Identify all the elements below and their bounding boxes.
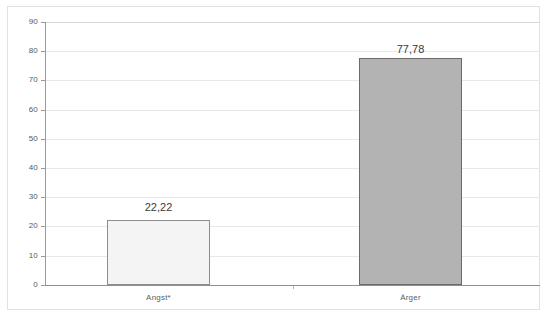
x-category-label-aerger: Ärger	[359, 294, 462, 302]
gridline-80	[46, 51, 540, 52]
gridline-70	[46, 80, 540, 81]
gridline-90	[46, 22, 540, 23]
plot-area	[46, 22, 540, 285]
y-tick-label-10: 10	[8, 252, 38, 260]
y-tick-label-90: 90	[8, 18, 38, 26]
bar-value-label-angst: 22,22	[107, 202, 210, 213]
y-tick-mark-40	[41, 168, 45, 169]
y-tick-label-0: 0	[8, 281, 38, 289]
y-tick-mark-0	[41, 285, 45, 286]
y-tick-label-40: 40	[8, 164, 38, 172]
y-tick-mark-80	[41, 51, 45, 52]
y-tick-mark-20	[41, 226, 45, 227]
bar-angst	[107, 220, 210, 285]
bar-aerger	[359, 58, 462, 285]
y-axis-line	[45, 22, 46, 286]
y-tick-mark-70	[41, 80, 45, 81]
y-tick-mark-60	[41, 110, 45, 111]
y-tick-mark-90	[41, 22, 45, 23]
y-tick-label-50: 50	[8, 135, 38, 143]
gridline-30	[46, 197, 540, 198]
y-tick-label-80: 80	[8, 47, 38, 55]
x-tick-stub-center	[293, 286, 294, 289]
y-tick-mark-50	[41, 139, 45, 140]
y-tick-label-20: 20	[8, 222, 38, 230]
y-tick-label-60: 60	[8, 106, 38, 114]
gridline-50	[46, 139, 540, 140]
bar-value-label-aerger: 77,78	[359, 44, 462, 55]
y-tick-label-30: 30	[8, 193, 38, 201]
y-tick-mark-30	[41, 197, 45, 198]
bar-chart-figure: 90 80 70 60 50 40 30 20 10 0 22,22 77,78…	[0, 0, 548, 317]
gridline-40	[46, 168, 540, 169]
y-tick-mark-10	[41, 256, 45, 257]
x-category-label-angst: Angst*	[107, 294, 210, 302]
gridline-60	[46, 110, 540, 111]
y-tick-label-70: 70	[8, 76, 38, 84]
